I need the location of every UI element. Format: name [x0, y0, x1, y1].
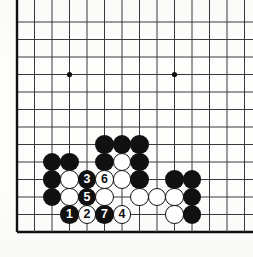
stone-black[interactable] [95, 135, 113, 153]
stone-black[interactable] [130, 170, 148, 188]
stone-move-number: 3 [78, 170, 96, 188]
numbered-stone-5[interactable]: 5 [78, 188, 96, 206]
stone-black[interactable] [183, 170, 201, 188]
stone-white[interactable] [113, 170, 131, 188]
stone-white[interactable] [60, 188, 78, 206]
stone-black[interactable] [95, 153, 113, 171]
stone-black[interactable] [183, 205, 201, 223]
numbered-stone-2[interactable]: 2 [78, 205, 96, 223]
stone-black[interactable] [165, 170, 183, 188]
stone-move-number: 2 [79, 206, 95, 222]
numbered-stone-4[interactable]: 4 [113, 205, 131, 223]
stone-white[interactable] [95, 188, 113, 206]
stone-move-number: 4 [114, 206, 130, 222]
stone-black[interactable] [130, 135, 148, 153]
star-point [172, 72, 177, 77]
numbered-stone-6[interactable]: 6 [95, 170, 113, 188]
stone-move-number: 7 [95, 205, 113, 223]
stone-white[interactable] [165, 205, 183, 223]
numbered-stone-7[interactable]: 7 [95, 205, 113, 223]
stone-move-number: 5 [78, 188, 96, 206]
stone-black[interactable] [113, 135, 131, 153]
numbered-stone-3[interactable]: 3 [78, 170, 96, 188]
go-diagram-figure: 3651274 [0, 0, 253, 257]
stone-white[interactable] [60, 170, 78, 188]
stone-white[interactable] [130, 188, 148, 206]
stone-black[interactable] [43, 170, 61, 188]
star-point [67, 72, 72, 77]
stone-move-number: 1 [60, 205, 78, 223]
stone-white[interactable] [165, 188, 183, 206]
stone-black[interactable] [60, 153, 78, 171]
stone-black[interactable] [130, 153, 148, 171]
numbered-stone-1[interactable]: 1 [60, 205, 78, 223]
stone-move-number: 6 [96, 171, 112, 187]
